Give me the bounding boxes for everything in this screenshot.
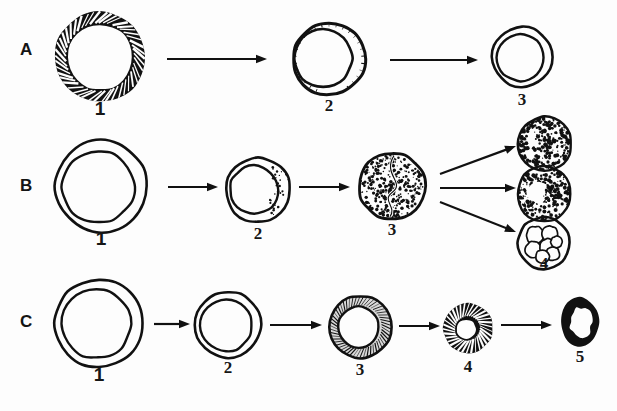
- arrow-b3-outcome3: [440, 202, 516, 232]
- stage-number-b-3: 3: [372, 220, 412, 240]
- arrow-a2-a3: [390, 56, 478, 64]
- arrow-b3-outcome1: [440, 146, 516, 174]
- thick-hatched-ring-cell: [55, 11, 145, 102]
- dense-stipple-bilobed-cell: [359, 154, 425, 219]
- cell-fate-diagram: A123B1234C12345: [0, 0, 617, 411]
- plain-medium-ring-cell: [195, 292, 262, 358]
- stage-number-a-2: 2: [309, 96, 349, 116]
- stage-number-c-1: 1: [79, 364, 119, 386]
- arrow-b1-b2: [168, 183, 218, 191]
- stage-number-a-1: 1: [80, 98, 120, 120]
- row-label-a: A: [20, 40, 33, 60]
- plain-double-ring-cell: [492, 27, 553, 88]
- plain-large-ring-cell: [54, 280, 142, 367]
- row-label-b: B: [20, 176, 33, 196]
- arrow-b3-outcome2: [440, 184, 516, 192]
- diagram-canvas: [0, 0, 617, 411]
- stage-number-a-3: 3: [502, 90, 542, 110]
- partial-stipple-cell: [226, 157, 295, 221]
- stage-number-b-4: 4: [524, 254, 564, 274]
- small-dark-oval-cell: [561, 297, 599, 347]
- arrow-c3-c4: [399, 322, 440, 330]
- dark-thick-ring-cell: [443, 303, 494, 354]
- row-label-c: C: [20, 312, 33, 332]
- stage-number-b-1: 1: [81, 228, 121, 250]
- outcome-stipple-clear-patch-cell: [517, 166, 570, 221]
- arrow-c1-c2: [154, 320, 190, 328]
- stage-number-c-5: 5: [560, 347, 600, 367]
- stage-number-c-4: 4: [448, 357, 488, 377]
- crescent-rim-cell: [293, 23, 365, 94]
- outcome-dense-stipple-cell: [517, 115, 571, 171]
- arrow-a1-a2: [167, 55, 267, 63]
- stage-number-c-3: 3: [340, 360, 380, 380]
- stage-number-b-2: 2: [238, 224, 278, 244]
- plain-thin-ring-cell: [55, 139, 147, 232]
- shaded-ring-cell: [329, 296, 392, 359]
- arrow-c4-c5: [501, 321, 552, 329]
- stage-number-c-2: 2: [208, 358, 248, 378]
- arrow-c2-c3: [270, 321, 322, 329]
- arrow-b2-b3: [299, 183, 350, 191]
